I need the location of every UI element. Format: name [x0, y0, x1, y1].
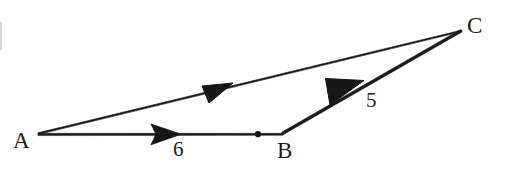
magnitude-label-bc: 5 [366, 90, 377, 111]
vector-diagram-canvas: A B C 6 5 [0, 0, 508, 172]
vector-bc [282, 29, 462, 134]
magnitude-label-ab: 6 [173, 139, 184, 160]
segment-midpoint-dot [255, 131, 261, 137]
vertex-label-a: A [13, 129, 30, 152]
vector-ac [38, 30, 462, 135]
vertex-label-c: C [467, 14, 483, 37]
vertex-label-b: B [277, 139, 293, 162]
vector-bc-shaft [282, 29, 462, 134]
vector-ab [38, 124, 283, 145]
vector-triangle-figure [0, 0, 508, 172]
vector-ac-shaft [38, 30, 462, 135]
vector-ac-arrowhead [202, 83, 233, 103]
